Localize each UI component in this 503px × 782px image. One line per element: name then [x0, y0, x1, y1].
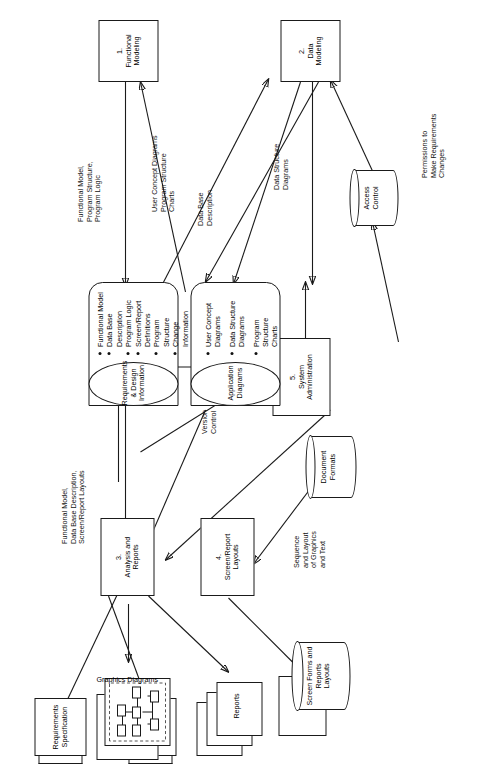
process-1-label: 1. Functional Modeling [115, 34, 141, 67]
flow-label-functional-model-program-structure-program-logic: Functional Model, Program Structure, Pro… [76, 72, 102, 222]
exhibit-page: EXHIBIT 16-3. Generic Model of a Compute… [0, 0, 503, 782]
list-item: Data Base Description [104, 289, 123, 355]
list-item: Program Structure [151, 289, 170, 355]
process-1-functional-modeling[interactable]: 1. Functional Modeling [98, 20, 158, 82]
list-item: Data Structure Diagrams [227, 289, 246, 355]
process-2-data-modeling[interactable]: 2. Data Modeling [280, 20, 340, 82]
list-item: Functional Model [95, 289, 104, 355]
document-requirements-specification[interactable]: Requirements Specification [34, 698, 86, 764]
stack-graphics-diagrams[interactable]: Graphics Diagrams [96, 652, 174, 760]
process-3-label: 3. Analysis and Reports [114, 537, 140, 578]
data-store-2-items: User Concept Diagrams Data Structure Dia… [203, 289, 275, 355]
cylinder-access-control[interactable]: Access Control [350, 170, 398, 226]
flow-label-data-base-description: Data Base Description [196, 130, 213, 226]
diagram-canvas: 3. Analysis and Reports 4. Screen/Report… [0, 0, 503, 782]
process-2-label: 2. Data Modeling [297, 36, 323, 65]
data-store-requirements-and-design-information[interactable]: Requirements & Design Information Functi… [88, 282, 178, 406]
process-3-analysis-and-reports[interactable]: 3. Analysis and Reports [100, 518, 154, 596]
cylinder-lip-icon [349, 169, 359, 227]
list-item: Program Logic [123, 289, 132, 355]
data-store-1-name: Requirements & Design Information [89, 361, 177, 405]
graphics-diagram-thumbnail-icon [104, 678, 170, 746]
list-item: User Concept Diagrams [203, 289, 222, 355]
list-item: Change Information [170, 289, 189, 355]
flow-label-permissions-to-make-requirements-changes: Permissions to Make Requirements Changes [420, 28, 446, 178]
flow-label-user-concept-diagrams-program-structure-charts: User Concept Diagrams Program Structure … [150, 62, 176, 212]
flow-label-functional-model-data-base-description-screen-report-layouts: Functional Model, Data Base Description,… [60, 384, 86, 544]
process-4-screen-report-layouts[interactable]: 4. Screen/Report Layouts [200, 518, 254, 596]
stack-reports[interactable]: Reports [196, 664, 272, 756]
process-5-label: 5. System Administration [288, 354, 314, 400]
stack-reports-label: Reports [232, 686, 241, 726]
flow-label-version-control: Version Control [200, 362, 217, 434]
stack-graphics-diagrams-label: Graphics Diagrams [96, 676, 118, 685]
list-item: Program Structure Charts [251, 289, 279, 355]
document-requirements-specification-label: Requirements Specification [51, 700, 69, 754]
process-4-label: 4. Screen/Report Layouts [214, 534, 240, 580]
screen-forms-and-reports-layouts-group: Screen Forms and Reports Layouts [278, 640, 352, 736]
flow-label-data-structure-diagrams: Data Structure Diagrams [272, 86, 289, 190]
flow-label-sequence-and-layout-of-graphics-and-text: Sequence and Layout of Graphics and Text [292, 464, 326, 568]
process-5-system-administration[interactable]: 5. System Administration [272, 338, 330, 416]
data-store-1-items: Functional Model Data Base Description P… [95, 289, 173, 355]
cylinder-access-control-label: Access Control [362, 170, 380, 226]
list-item: Screen/Report Definitions [133, 289, 152, 355]
cylinder-lip-icon [291, 641, 303, 711]
cylinder-screen-forms-and-reports-layouts[interactable]: Screen Forms and Reports Layouts [292, 642, 350, 710]
cylinder-screen-forms-label: Screen Forms and Reports Layouts [305, 642, 331, 710]
